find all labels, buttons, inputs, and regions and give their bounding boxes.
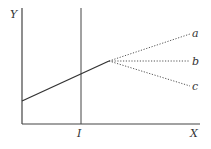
branch-c-line (109, 61, 190, 86)
branch-b-label: b (192, 55, 199, 68)
diagram-canvas: Y X I a b c (0, 0, 211, 149)
trend-line (22, 61, 109, 101)
branch-c-label: c (192, 80, 198, 93)
branch-a-line (109, 34, 190, 61)
marker-label-i: I (76, 127, 82, 140)
branch-a-label: a (192, 27, 199, 40)
y-axis-label: Y (10, 8, 19, 21)
x-axis-label: X (189, 127, 199, 140)
